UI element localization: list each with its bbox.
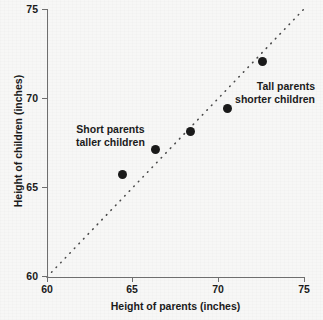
x-tick-label-75: 75 [289, 283, 319, 295]
paper-texture [0, 0, 323, 320]
data-point [118, 170, 127, 179]
scatter-plot-figure: 75 70 65 60 60 65 70 75 Height of parent… [0, 0, 323, 320]
x-axis-title: Height of parents (inches) [47, 300, 304, 312]
x-tick-70 [218, 277, 219, 282]
annotation-short-parents: Short parents taller children [76, 123, 145, 148]
x-tick-65 [132, 277, 133, 282]
data-point [186, 127, 195, 136]
y-tick-label-75: 75 [16, 3, 38, 15]
x-tick-60 [47, 277, 48, 282]
x-tick-label-60: 60 [32, 283, 62, 295]
data-point [151, 145, 160, 154]
y-axis-title: Height of children (inches) [12, 61, 24, 221]
y-tick-65 [42, 187, 47, 188]
x-tick-75 [304, 277, 305, 282]
y-axis-line [47, 9, 48, 278]
x-tick-label-65: 65 [117, 283, 147, 295]
x-axis-line [47, 277, 305, 278]
y-tick-70 [42, 98, 47, 99]
x-tick-label-70: 70 [203, 283, 233, 295]
y-tick-label-60: 60 [16, 270, 38, 282]
annotation-tall-parents: Tall parents shorter children [175, 80, 315, 105]
data-point [258, 57, 267, 66]
reference-line [0, 0, 323, 320]
y-tick-75 [42, 9, 47, 10]
